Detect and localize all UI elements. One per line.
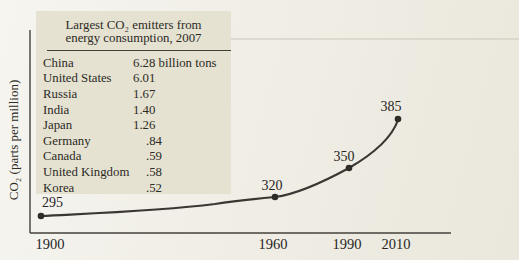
table-row: Canada .59 xyxy=(43,149,225,165)
value-cell: 1.40 xyxy=(133,103,155,119)
x-tick-1960: 1960 xyxy=(259,236,288,253)
value-cell: 6.01 xyxy=(133,71,155,87)
x-tick-2010: 2010 xyxy=(382,236,411,253)
country-cell: China xyxy=(43,56,133,72)
point-label-350: 350 xyxy=(334,149,355,165)
value-cell: .84 xyxy=(133,134,162,150)
table-row: United Kingdom .58 xyxy=(43,165,225,181)
x-tick-1990: 1990 xyxy=(333,236,362,253)
country-cell: Korea xyxy=(43,181,133,197)
table-row: Russia 1.67 xyxy=(43,87,225,103)
co2-trend-figure: CO₂ (parts per million) 295 320 350 385 … xyxy=(0,0,519,260)
point-label-385: 385 xyxy=(381,99,402,115)
table-row: India 1.40 xyxy=(43,103,225,119)
country-cell: Germany xyxy=(43,134,133,150)
data-point-1900 xyxy=(38,213,45,220)
value-cell: .52 xyxy=(133,181,162,197)
inset-table-rows: China 6.28 billion tons United States 6.… xyxy=(36,51,231,196)
x-tick-1900: 1900 xyxy=(36,236,65,253)
value-cell: 6.28 billion tons xyxy=(133,56,217,72)
value-cell: .58 xyxy=(133,165,162,181)
inset-table-title: Largest CO₂ emitters from energy consump… xyxy=(36,19,231,46)
table-row: Korea .52 xyxy=(43,181,225,197)
point-label-295: 295 xyxy=(42,195,63,211)
data-point-2010 xyxy=(395,116,402,123)
value-cell: 1.67 xyxy=(133,87,155,103)
country-cell: India xyxy=(43,103,133,119)
country-cell: United Kingdom xyxy=(43,165,133,181)
table-row: Germany .84 xyxy=(43,134,225,150)
table-row: Japan 1.26 xyxy=(43,118,225,134)
value-cell: .59 xyxy=(133,149,162,165)
country-cell: Canada xyxy=(43,149,133,165)
value-cell: 1.26 xyxy=(133,118,155,134)
country-cell: United States xyxy=(43,71,133,87)
data-point-1990 xyxy=(346,165,353,172)
table-row: United States 6.01 xyxy=(43,71,225,87)
data-point-1960 xyxy=(272,194,279,201)
inset-title-line2: energy consumption, 2007 xyxy=(36,32,231,45)
inset-title-line1: Largest CO₂ emitters from xyxy=(36,19,231,32)
country-cell: Japan xyxy=(43,118,133,134)
table-row: China 6.28 billion tons xyxy=(43,56,225,72)
emitters-inset-table: Largest CO₂ emitters from energy consump… xyxy=(36,11,231,194)
point-label-320: 320 xyxy=(262,178,283,194)
country-cell: Russia xyxy=(43,87,133,103)
y-axis-label: CO₂ (parts per million) xyxy=(6,60,22,220)
